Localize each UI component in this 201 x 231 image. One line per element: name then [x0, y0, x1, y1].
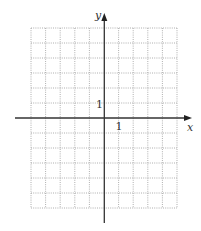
coordinate-plane: x y 1 1 [0, 0, 201, 231]
y-axis-arrow-icon [101, 13, 107, 21]
x-tick-label: 1 [116, 120, 123, 133]
y-axis-label: y [94, 9, 102, 22]
x-axis-label: x [187, 121, 194, 134]
y-tick-label: 1 [96, 98, 103, 111]
